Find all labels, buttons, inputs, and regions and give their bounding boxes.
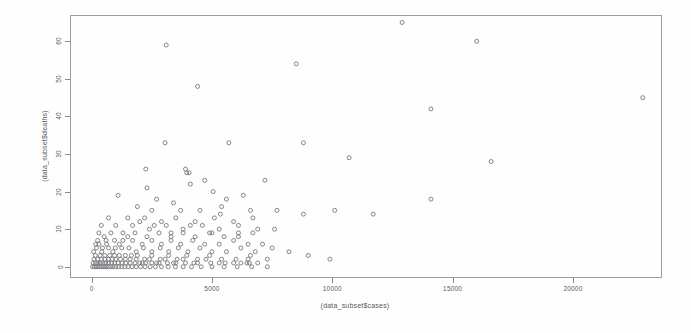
- x-tick-mark: [212, 278, 213, 283]
- y-tick-mark: [65, 229, 70, 230]
- x-tick-mark: [332, 278, 333, 283]
- y-tick-mark: [65, 41, 70, 42]
- y-tick-mark: [65, 192, 70, 193]
- y-tick-label: 20: [56, 188, 63, 196]
- y-tick-label: 0: [58, 265, 65, 269]
- x-axis-label: (data_subset$cases): [321, 302, 390, 309]
- y-tick-mark: [65, 267, 70, 268]
- x-tick-label: 10000: [323, 285, 342, 292]
- x-tick-label: 15000: [443, 285, 462, 292]
- x-tick-label: 20000: [563, 285, 582, 292]
- plot-area-border: [70, 15, 662, 278]
- y-tick-label: 10: [56, 225, 63, 233]
- y-tick-label: 40: [56, 113, 63, 121]
- x-tick-mark: [92, 278, 93, 283]
- y-tick-label: 60: [56, 37, 63, 45]
- y-tick-mark: [65, 79, 70, 80]
- y-tick-label: 50: [56, 75, 63, 83]
- x-tick-mark: [453, 278, 454, 283]
- y-axis-label: (data_subset$deaths): [41, 110, 48, 182]
- x-tick-label: 5000: [204, 285, 219, 292]
- y-tick-label: 30: [56, 150, 63, 158]
- y-tick-mark: [65, 116, 70, 117]
- scatter-plot-figure: 05000100001500020000 0102030405060 (data…: [0, 0, 691, 333]
- x-tick-mark: [573, 278, 574, 283]
- x-tick-label: 0: [90, 285, 94, 292]
- y-tick-mark: [65, 154, 70, 155]
